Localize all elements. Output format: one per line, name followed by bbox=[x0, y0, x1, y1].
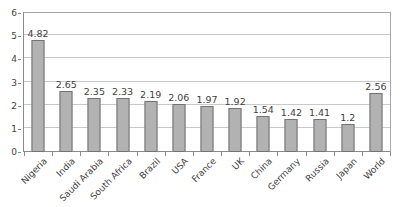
bar-value-label: 1.97 bbox=[196, 95, 217, 105]
y-tick-mark bbox=[18, 83, 21, 84]
bar[interactable] bbox=[60, 91, 73, 152]
y-tick-label: 3 bbox=[11, 78, 17, 87]
x-tick-label: USA bbox=[170, 156, 190, 176]
bar-value-label: 2.65 bbox=[56, 80, 77, 90]
y-tick-mark bbox=[18, 59, 21, 60]
bar-slot: 2.35 bbox=[80, 13, 108, 152]
bar-value-label: 1.2 bbox=[340, 113, 355, 123]
bar-value-label: 1.41 bbox=[309, 108, 330, 118]
bar[interactable] bbox=[341, 124, 354, 152]
bar-value-label: 2.19 bbox=[140, 90, 161, 100]
bar[interactable] bbox=[313, 119, 326, 152]
x-tick-mark bbox=[390, 152, 391, 156]
bar-value-label: 2.33 bbox=[112, 87, 133, 97]
bar-value-label: 1.42 bbox=[281, 108, 302, 118]
y-tick-label: 6 bbox=[11, 9, 17, 18]
bar-slot: 1.54 bbox=[249, 13, 277, 152]
x-tick-label: China bbox=[249, 156, 274, 181]
bar-value-label: 2.56 bbox=[365, 82, 386, 92]
bar[interactable] bbox=[32, 40, 45, 152]
bars-layer: 4.822.652.352.332.192.061.971.921.541.42… bbox=[24, 13, 390, 152]
y-tick-mark bbox=[18, 13, 21, 14]
bar[interactable] bbox=[116, 98, 129, 152]
bar-slot: 2.06 bbox=[165, 13, 193, 152]
x-axis-labels: NigeriaIndiaSaudi ArabiaSouth AfricaBraz… bbox=[24, 156, 390, 207]
bar-slot: 2.65 bbox=[52, 13, 80, 152]
x-tick-label: Japan bbox=[334, 156, 359, 181]
y-tick-label: 2 bbox=[11, 101, 17, 110]
bar[interactable] bbox=[257, 116, 270, 152]
y-tick-label: 1 bbox=[11, 124, 17, 133]
bar[interactable] bbox=[144, 101, 157, 152]
y-tick-label: 4 bbox=[11, 55, 17, 64]
bar[interactable] bbox=[172, 104, 185, 152]
bar-value-label: 1.92 bbox=[225, 97, 246, 107]
x-tick-label: Nigeria bbox=[19, 156, 49, 186]
bar[interactable] bbox=[369, 93, 382, 152]
bar-value-label: 2.35 bbox=[84, 87, 105, 97]
bar-slot: 1.41 bbox=[306, 13, 334, 152]
bar-value-label: 4.82 bbox=[27, 29, 48, 39]
y-tick-mark bbox=[18, 152, 21, 153]
bar-slot: 1.42 bbox=[277, 13, 305, 152]
bar[interactable] bbox=[229, 108, 242, 152]
bar-value-label: 1.54 bbox=[253, 105, 274, 115]
bar-slot: 1.2 bbox=[334, 13, 362, 152]
x-tick-label: World bbox=[362, 156, 387, 181]
bar-slot: 2.56 bbox=[362, 13, 390, 152]
bar[interactable] bbox=[88, 98, 101, 152]
y-tick-label: 0 bbox=[11, 148, 17, 157]
bar[interactable] bbox=[200, 106, 213, 152]
x-tick-label: Russia bbox=[303, 156, 331, 184]
y-axis: 0123456 bbox=[0, 12, 21, 152]
bar-slot: 1.97 bbox=[193, 13, 221, 152]
y-tick-mark bbox=[18, 129, 21, 130]
x-tick-label: Brazil bbox=[137, 156, 162, 181]
bar[interactable] bbox=[285, 119, 298, 152]
y-tick-mark bbox=[18, 106, 21, 107]
x-tick-label: India bbox=[55, 156, 78, 179]
bar-slot: 1.92 bbox=[221, 13, 249, 152]
bar-value-label: 2.06 bbox=[168, 93, 189, 103]
bar-chart: 0123456 4.822.652.352.332.192.061.971.92… bbox=[0, 0, 403, 207]
x-tick-label: France bbox=[190, 156, 218, 184]
bar-slot: 2.19 bbox=[137, 13, 165, 152]
x-tick-label: UK bbox=[230, 156, 246, 172]
bar-slot: 2.33 bbox=[108, 13, 136, 152]
y-tick-mark bbox=[18, 36, 21, 37]
bar-slot: 4.82 bbox=[24, 13, 52, 152]
y-tick-label: 5 bbox=[11, 32, 17, 41]
